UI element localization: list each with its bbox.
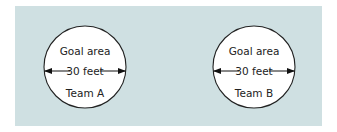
goal-areas-diagram: Goal area 30 feet Team A Goal area 30 fe… <box>0 0 337 132</box>
goal-area-team-a: Goal area 30 feet Team A <box>44 26 126 108</box>
dimension-label: 30 feet <box>235 65 272 77</box>
team-label: Team A <box>65 87 105 99</box>
dimension-label: 30 feet <box>66 65 103 77</box>
goal-area-label: Goal area <box>60 45 111 57</box>
goal-area-label: Goal area <box>229 45 280 57</box>
goal-area-team-b: Goal area 30 feet Team B <box>213 26 295 108</box>
team-label: Team B <box>234 87 273 99</box>
